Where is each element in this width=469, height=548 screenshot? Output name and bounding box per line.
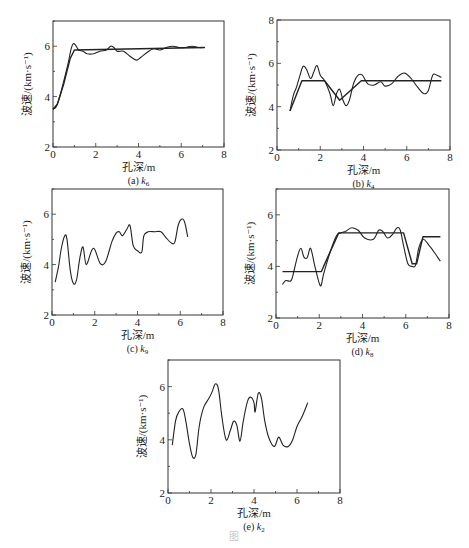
x-tick-label: 2 xyxy=(318,151,324,163)
x-tick-label: 8 xyxy=(221,148,227,160)
y-tick-label: 4 xyxy=(44,259,50,271)
y-axis-label: 波速/(km·s⁻¹) xyxy=(244,221,257,285)
series-fitted xyxy=(53,48,205,110)
panel-caption: (d) k8 xyxy=(351,346,374,359)
x-tick-label: 4 xyxy=(361,151,367,163)
plot-frame xyxy=(277,20,450,150)
chart-panel-a: 02468246波速/(km·s⁻¹)孔深/m(a) k6 xyxy=(21,21,227,188)
y-axis-label: 波速/(km·s⁻¹) xyxy=(245,53,258,117)
x-axis-label: 孔深/m xyxy=(121,329,155,341)
figure-canvas: 02468246波速/(km·s⁻¹)孔深/m(a) k6024682468波速… xyxy=(0,0,469,548)
y-tick-label: 4 xyxy=(269,101,275,113)
y-tick-label: 2 xyxy=(45,141,51,153)
x-tick-label: 8 xyxy=(220,316,226,328)
x-tick-label: 0 xyxy=(273,319,279,331)
figure-caption: 图 xyxy=(0,528,469,543)
series-measured xyxy=(53,43,205,109)
x-tick-label: 6 xyxy=(403,319,409,331)
series-fitted xyxy=(290,81,441,111)
x-tick-label: 2 xyxy=(208,494,214,506)
x-axis-label: 孔深/m xyxy=(237,507,271,519)
plot-frame xyxy=(168,360,340,493)
y-tick-label: 6 xyxy=(268,209,274,221)
x-tick-label: 4 xyxy=(136,148,142,160)
y-axis-label: 波速/(km·s⁻¹) xyxy=(136,394,149,458)
x-tick-label: 8 xyxy=(337,494,343,506)
x-tick-label: 0 xyxy=(165,494,171,506)
series-measured xyxy=(283,227,441,286)
x-tick-label: 8 xyxy=(446,319,452,331)
x-axis-label: 孔深/m xyxy=(122,161,156,173)
x-tick-label: 6 xyxy=(404,151,410,163)
y-tick-label: 2 xyxy=(160,487,166,499)
y-tick-label: 6 xyxy=(44,208,50,220)
series-measured xyxy=(55,219,188,284)
y-tick-label: 6 xyxy=(45,40,51,52)
x-tick-label: 2 xyxy=(317,319,323,331)
y-tick-label: 8 xyxy=(269,14,275,26)
chart-panel-c: 02468246波速/(km·s⁻¹)孔深/m(c) k9 xyxy=(20,189,226,356)
y-axis-label: 波速/(km·s⁻¹) xyxy=(21,52,34,116)
y-tick-label: 4 xyxy=(268,260,274,272)
y-tick-label: 4 xyxy=(160,434,166,446)
x-axis-label: 孔深/m xyxy=(346,332,380,344)
x-tick-label: 6 xyxy=(179,148,185,160)
x-tick-label: 4 xyxy=(135,316,141,328)
chart-panel-d: 02468246波速/(km·s⁻¹)孔深/m(d) k8 xyxy=(244,189,452,359)
panel-caption: (c) k9 xyxy=(127,343,149,356)
x-tick-label: 0 xyxy=(49,316,55,328)
y-axis-label: 波速/(km·s⁻¹) xyxy=(20,220,33,284)
chart-panel-e: 02468246波速/(km·s⁻¹)孔深/m(e) k2 xyxy=(136,360,343,534)
x-tick-label: 0 xyxy=(274,151,280,163)
plot-frame xyxy=(276,189,449,318)
x-tick-label: 0 xyxy=(50,148,56,160)
y-tick-label: 6 xyxy=(160,381,166,393)
x-tick-label: 6 xyxy=(294,494,300,506)
x-tick-label: 6 xyxy=(178,316,184,328)
x-tick-label: 4 xyxy=(251,494,257,506)
x-tick-label: 4 xyxy=(360,319,366,331)
x-tick-label: 2 xyxy=(93,148,99,160)
x-axis-label: 孔深/m xyxy=(347,164,381,176)
series-measured xyxy=(172,384,307,459)
y-tick-label: 4 xyxy=(45,91,51,103)
y-tick-label: 2 xyxy=(269,144,275,156)
series-measured xyxy=(290,65,441,111)
y-tick-label: 6 xyxy=(269,57,275,69)
y-tick-label: 2 xyxy=(268,312,274,324)
plot-frame xyxy=(52,189,223,315)
x-tick-label: 8 xyxy=(447,151,453,163)
chart-panel-b: 024682468波速/(km·s⁻¹)孔深/m(b) k4 xyxy=(245,14,453,191)
y-tick-label: 2 xyxy=(44,309,50,321)
panel-caption: (a) k6 xyxy=(128,175,150,188)
x-tick-label: 2 xyxy=(92,316,98,328)
plot-frame xyxy=(53,21,224,147)
series-fitted xyxy=(283,233,441,272)
